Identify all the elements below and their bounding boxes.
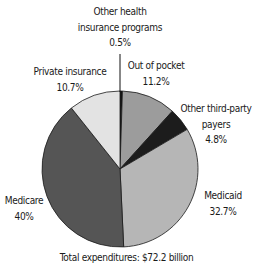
chart-footnote: Total expenditures: $72.2 billion — [23, 251, 230, 264]
label-other-third-party-pct: 4.8% — [179, 132, 253, 148]
label-private-insurance-pct: 10.7% — [29, 80, 111, 96]
label-medicare-line1: Medicare — [0, 193, 49, 209]
label-other-health-line2: insurance programs — [71, 20, 169, 36]
label-other-third-party: Other third-party payers 4.8% — [179, 101, 253, 148]
label-medicare: Medicare 40% — [0, 193, 49, 224]
label-other-third-party-line1: Other third-party — [179, 101, 253, 117]
label-other-health-line1: Other health — [71, 4, 169, 20]
label-private-insurance-line1: Private insurance — [29, 64, 111, 80]
label-medicaid-line1: Medicaid — [198, 188, 247, 204]
label-private-insurance: Private insurance 10.7% — [29, 64, 111, 95]
label-other-health-pct: 0.5% — [71, 35, 169, 51]
pie-slices — [42, 91, 198, 247]
label-other-health: Other health insurance programs 0.5% — [71, 4, 169, 51]
label-out-of-pocket-line1: Out of pocket — [119, 58, 193, 74]
label-medicaid-pct: 32.7% — [198, 204, 247, 220]
label-out-of-pocket-pct: 11.2% — [119, 74, 193, 90]
label-out-of-pocket: Out of pocket 11.2% — [119, 58, 193, 89]
label-medicare-pct: 40% — [0, 209, 49, 225]
label-other-third-party-line2: payers — [179, 117, 253, 133]
label-medicaid: Medicaid 32.7% — [198, 188, 247, 219]
